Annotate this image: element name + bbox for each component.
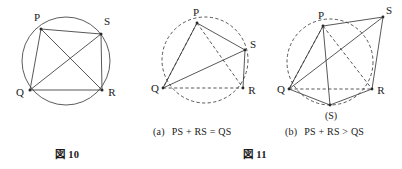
figure-11b-relation: PS + RS > QS bbox=[304, 126, 364, 137]
figure11b-segment-QP bbox=[289, 26, 323, 89]
figure11b-vertex-P bbox=[322, 25, 325, 28]
figure11b-vertex-S bbox=[382, 16, 385, 19]
figure-10-caption: 図 10 bbox=[55, 146, 79, 161]
figure11b-segment-Sprime-R bbox=[330, 89, 372, 105]
figure11a-label-S: S bbox=[250, 38, 256, 50]
figure11b-vertex-R bbox=[371, 88, 374, 91]
figure-10-diagram: P S Q R bbox=[0, 0, 140, 125]
figure11b-segment-QS bbox=[289, 17, 383, 89]
figure10-label-R: R bbox=[108, 86, 116, 98]
figure10-diagonal-QS bbox=[30, 34, 101, 90]
figure11b-label-P: P bbox=[318, 9, 324, 21]
figure-11-caption: 図 11 bbox=[243, 146, 267, 161]
figure-11b-caption: (b)PS + RS > QS bbox=[285, 126, 364, 137]
figure11a-segment-PQ bbox=[163, 23, 197, 88]
figure11a-label-R: R bbox=[248, 84, 256, 96]
figure11a-vertex-R bbox=[242, 87, 245, 90]
figure11b-segment-P-Sprime bbox=[323, 26, 330, 105]
figure10-segment-PS bbox=[41, 29, 101, 34]
figure10-vertex-P bbox=[40, 28, 43, 31]
figure11b-label-R: R bbox=[377, 84, 385, 96]
figure11a-segment-SR bbox=[243, 50, 245, 88]
figure10-label-P: P bbox=[34, 11, 40, 23]
figure10-vertex-Q bbox=[29, 89, 32, 92]
figure10-segment-QP bbox=[30, 29, 41, 90]
figure-panel-root: P S Q R P S Q R bbox=[0, 0, 402, 169]
figure11b-segment-Q-Sprime bbox=[289, 89, 330, 105]
figure11a-label-Q: Q bbox=[151, 82, 159, 94]
figure11b-label-Q: Q bbox=[277, 83, 285, 95]
figure11a-label-P: P bbox=[193, 6, 199, 18]
figure11b-vertex-Q bbox=[288, 88, 291, 91]
figure11b-circle bbox=[287, 19, 373, 105]
figure10-segment-SR bbox=[101, 34, 102, 90]
figure11b-segment-SR bbox=[372, 17, 383, 89]
figure10-vertex-R bbox=[101, 89, 104, 92]
figure11a-vertex-S bbox=[244, 49, 247, 52]
figure11b-label-S: S bbox=[386, 4, 392, 16]
figure11a-segment-QS bbox=[163, 50, 245, 88]
figure10-label-Q: Q bbox=[16, 86, 24, 98]
figure10-label-S: S bbox=[104, 15, 110, 27]
figure11b-segment-PS bbox=[323, 17, 383, 26]
figure11a-vertex-P bbox=[196, 22, 199, 25]
figure-11b-diagram: P S Q R (S) bbox=[270, 0, 402, 125]
figure-11b-tag: (b) bbox=[285, 126, 297, 137]
figure10-diagonal-PR bbox=[41, 29, 102, 90]
figure10-vertex-S bbox=[100, 33, 103, 36]
figure11b-vertex-Sprime bbox=[329, 104, 332, 107]
figure11a-segment-PS bbox=[197, 23, 245, 50]
figure11a-circle bbox=[162, 17, 248, 103]
figure11b-label-Sprime: (S) bbox=[325, 110, 337, 122]
figure-11a-tag: (a) bbox=[153, 126, 165, 137]
figure-11a-relation: PS + RS = QS bbox=[172, 126, 232, 137]
figure11a-vertex-Q bbox=[162, 87, 165, 90]
figure-11a-diagram: P S Q R bbox=[140, 0, 270, 125]
figure-11a-caption: (a)PS + RS = QS bbox=[153, 126, 232, 137]
figure11a-segment-PR-dashed bbox=[197, 23, 243, 88]
